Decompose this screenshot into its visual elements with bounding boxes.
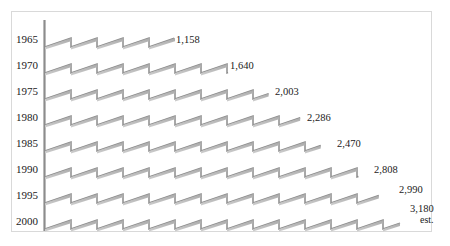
bar-tooth-wedge xyxy=(279,168,305,180)
bar-tooth-wedge xyxy=(253,168,279,180)
bar-tooth-wedge xyxy=(123,38,149,50)
bar-tooth-wedge xyxy=(227,220,253,232)
bars-group xyxy=(45,38,400,232)
bar-tooth-wedge xyxy=(305,194,331,206)
bar-tooth-wedge xyxy=(123,168,149,180)
bar-tooth-wedge xyxy=(71,116,97,128)
bar-tooth-wedge xyxy=(45,38,71,50)
bar-value-text-2000: 3,180 xyxy=(410,203,434,214)
bar-tooth-wedge xyxy=(227,142,253,154)
axis-year-label-1965: 1965 xyxy=(8,33,38,45)
bar-tooth-wedge xyxy=(175,90,201,102)
bar-tooth-wedge xyxy=(279,142,305,154)
bar-tooth-wedge xyxy=(175,220,201,232)
bar-tooth-wedge xyxy=(227,194,253,206)
bar-tooth-wedge xyxy=(123,64,149,76)
axis-year-label-1995: 1995 xyxy=(8,189,38,201)
bar-tooth-wedge xyxy=(123,90,149,102)
bar-tooth-wedge xyxy=(201,142,227,154)
bar-tooth-wedge xyxy=(227,90,253,102)
bar-tooth-wedge xyxy=(227,116,253,128)
axis-year-label-1970: 1970 xyxy=(8,59,38,71)
bar-value-label-2000: 3,180 est. xyxy=(410,203,434,225)
bar-tooth-wedge xyxy=(45,220,71,232)
bar-tooth-wedge xyxy=(253,116,279,128)
bar-tooth-wedge xyxy=(71,220,97,232)
bar-tooth-wedge xyxy=(45,116,71,128)
bar-tooth-wedge xyxy=(357,195,379,205)
bar-tooth-wedge xyxy=(175,142,201,154)
bar-tooth-wedge xyxy=(201,90,227,102)
bar-tooth-wedge xyxy=(97,38,123,50)
bar-tooth-wedge xyxy=(97,220,123,232)
bar-tooth-wedge xyxy=(45,142,71,154)
bar-tooth-wedge xyxy=(149,194,175,206)
bar-tooth-wedge xyxy=(97,90,123,102)
bar-tooth-wedge xyxy=(201,168,227,180)
bar-tooth-wedge xyxy=(201,116,227,128)
bar-value-label-1975: 2,003 xyxy=(275,86,299,97)
bar-value-label-1995: 2,990 xyxy=(399,184,423,195)
sawtooth-bar-plot xyxy=(12,12,433,233)
bar-value-label-1970: 1,640 xyxy=(230,60,254,71)
bar-tooth-wedge xyxy=(175,64,201,76)
estimate-note: est. xyxy=(410,214,434,225)
bar-tooth-wedge xyxy=(227,168,253,180)
bar-tooth-wedge xyxy=(279,118,300,128)
bar-tooth-wedge xyxy=(175,116,201,128)
bar-tooth-wedge xyxy=(331,194,357,206)
bar-value-label-1990: 2,808 xyxy=(374,164,398,175)
bar-tooth-wedge xyxy=(149,38,175,50)
bar-tooth-wedge xyxy=(279,194,305,206)
chart-frame: 1965 1970 1975 1980 1985 1990 1995 2000 … xyxy=(11,11,432,232)
axis-year-label-1980: 1980 xyxy=(8,111,38,123)
bar-tooth-wedge xyxy=(201,220,227,232)
bar-tooth-wedge xyxy=(149,116,175,128)
bar-tooth-wedge xyxy=(71,64,97,76)
bar-tooth-wedge xyxy=(123,116,149,128)
bar-tooth-wedge xyxy=(201,64,227,76)
bar-tooth-wedge xyxy=(123,220,149,232)
bar-tooth-wedge xyxy=(71,194,97,206)
bar-tooth-wedge xyxy=(149,142,175,154)
bar-tooth-wedge xyxy=(97,116,123,128)
bar-tooth-wedge xyxy=(123,194,149,206)
bar-tooth-wedge xyxy=(305,168,331,180)
bar-tooth-wedge xyxy=(71,90,97,102)
bar-tooth-wedge xyxy=(71,168,97,180)
bar-tooth-wedge xyxy=(331,168,357,180)
bar-tooth-wedge xyxy=(253,194,279,206)
bar-tooth-wedge xyxy=(331,220,357,232)
bar-tooth-wedge xyxy=(123,142,149,154)
bar-tooth-wedge xyxy=(45,194,71,206)
bar-tooth-wedge xyxy=(253,220,279,232)
axis-year-label-1990: 1990 xyxy=(8,163,38,175)
chart-screenshot: 1965 1970 1975 1980 1985 1990 1995 2000 … xyxy=(0,0,450,246)
bar-tooth-wedge xyxy=(71,142,97,154)
axis-year-label-1985: 1985 xyxy=(8,137,38,149)
bar-tooth-wedge xyxy=(175,194,201,206)
bar-tooth-wedge xyxy=(357,220,383,232)
bar-tooth-wedge xyxy=(149,220,175,232)
bar-value-label-1965: 1,158 xyxy=(176,34,200,45)
bar-tooth-wedge xyxy=(149,168,175,180)
bar-tooth-wedge xyxy=(97,142,123,154)
bar-tooth-wedge xyxy=(97,194,123,206)
bar-tooth-wedge xyxy=(71,38,97,50)
bar-tooth-wedge xyxy=(149,90,175,102)
bar-tooth-wedge xyxy=(201,194,227,206)
bar-tooth-wedge xyxy=(45,168,71,180)
bar-tooth-wedge xyxy=(149,64,175,76)
bar-tooth-wedge xyxy=(279,220,305,232)
axis-year-label-1975: 1975 xyxy=(8,85,38,97)
bar-tooth-wedge xyxy=(97,64,123,76)
bar-tooth-wedge xyxy=(253,142,279,154)
bar-value-label-1980: 2,286 xyxy=(307,112,331,123)
bar-tooth-wedge xyxy=(45,90,71,102)
bar-tooth-wedge xyxy=(305,220,331,232)
bar-tooth-wedge xyxy=(97,168,123,180)
bar-tooth-wedge xyxy=(45,64,71,76)
bar-value-label-1985: 2,470 xyxy=(337,138,361,149)
bar-tooth-wedge xyxy=(175,168,201,180)
axis-year-label-2000: 2000 xyxy=(8,215,38,227)
